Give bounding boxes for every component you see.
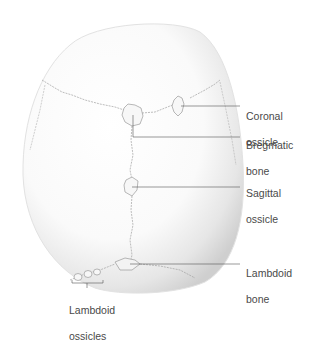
label-lambdoid-bone: Lambdoid bone [246,254,292,319]
lambdoid-ossicle-1 [74,274,82,281]
skull-outline [23,24,244,293]
label-lambdoid-ossicles: Lambdoid ossicles [69,291,115,344]
lambdoid-ossicle-3 [94,269,101,275]
lambdoid-ossicle-2 [84,271,92,278]
label-sagittal-ossicle: Sagittal ossicle [246,174,281,239]
